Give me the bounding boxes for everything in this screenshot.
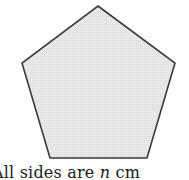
caption-suffix: cm [110,163,140,180]
pentagon-diagram [0,0,189,180]
pentagon-shape [22,6,175,158]
caption-prefix: All sides are [0,163,100,180]
side-length-caption: All sides are n cm [0,163,140,180]
caption-variable: n [100,163,111,180]
